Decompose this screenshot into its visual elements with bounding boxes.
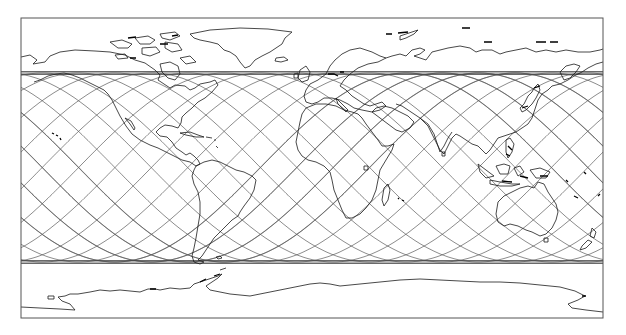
- map-canvas: [0, 0, 626, 335]
- world-map: [0, 0, 626, 335]
